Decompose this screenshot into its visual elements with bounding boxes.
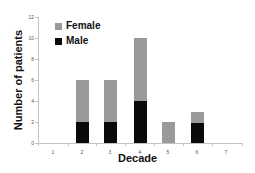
stacked-bar-chart: 0246810121234567 Number of patients Deca…: [0, 0, 255, 173]
x-tick-label: 1: [47, 149, 59, 155]
x-tick-label: 2: [76, 149, 88, 155]
x-tick-mark: [183, 143, 184, 146]
x-axis-label: Decade: [118, 152, 157, 164]
bar-male-decade-4: [134, 101, 147, 143]
y-tick-mark: [35, 59, 38, 60]
x-tick-mark: [154, 143, 155, 146]
x-tick-label: 6: [191, 149, 203, 155]
y-tick-mark: [35, 122, 38, 123]
bar-female-decade-6: [191, 112, 204, 123]
bar-female-decade-3: [104, 80, 117, 122]
x-tick-mark: [242, 143, 243, 146]
bar-male-decade-2: [76, 122, 89, 143]
bar-female-decade-5: [162, 122, 175, 143]
y-tick-mark: [35, 38, 38, 39]
y-tick-label: 0: [20, 140, 34, 146]
x-tick-mark: [38, 143, 39, 146]
x-tick-mark: [68, 143, 69, 146]
x-tick-label: 7: [220, 149, 232, 155]
legend-swatch-female: [55, 23, 62, 30]
y-axis-line: [38, 17, 39, 144]
x-tick-label: 5: [162, 149, 174, 155]
y-tick-mark: [35, 101, 38, 102]
x-tick-mark: [212, 143, 213, 146]
x-tick-mark: [96, 143, 97, 146]
x-tick-mark: [125, 143, 126, 146]
legend-swatch-male: [55, 38, 62, 45]
x-tick-label: 3: [104, 149, 116, 155]
y-tick-mark: [35, 80, 38, 81]
bar-female-decade-2: [76, 80, 89, 122]
y-tick-label: 12: [20, 14, 34, 20]
bar-female-decade-4: [134, 38, 147, 101]
y-axis-label: Number of patients: [12, 25, 24, 135]
legend-label-male: Male: [66, 36, 88, 46]
y-tick-mark: [35, 17, 38, 18]
bar-male-decade-3: [104, 122, 117, 143]
bar-male-decade-6: [191, 122, 204, 143]
legend-label-female: Female: [66, 21, 100, 31]
